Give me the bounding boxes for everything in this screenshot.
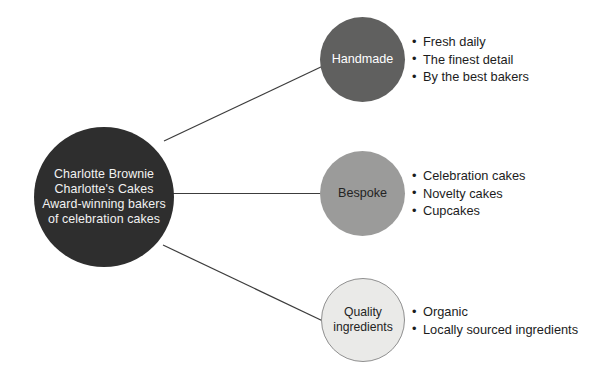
diagram-canvas: Charlotte Brownie Charlotte's Cakes Awar… bbox=[0, 0, 598, 383]
list-item: Cupcakes bbox=[412, 202, 525, 220]
connector-hub-to-handmade bbox=[164, 66, 323, 141]
branch-node-bespoke: Bespoke bbox=[320, 151, 405, 236]
connector-hub-to-quality bbox=[163, 245, 325, 322]
list-item: The finest detail bbox=[412, 51, 529, 69]
branch-node-quality-ingredients: Quality ingredients bbox=[321, 278, 405, 362]
hub-node: Charlotte Brownie Charlotte's Cakes Awar… bbox=[34, 127, 174, 267]
branch-node-handmade-label: Handmade bbox=[328, 52, 398, 67]
bullet-list-handmade: Fresh daily The finest detail By the bes… bbox=[412, 33, 529, 86]
list-item: By the best bakers bbox=[412, 68, 529, 86]
branch-node-handmade: Handmade bbox=[320, 17, 405, 102]
list-item: Fresh daily bbox=[412, 33, 529, 51]
bullet-list-quality-ingredients: Organic Locally sourced ingredients bbox=[412, 303, 578, 338]
branch-node-quality-ingredients-label: Quality ingredients bbox=[329, 305, 397, 335]
list-item: Locally sourced ingredients bbox=[412, 321, 578, 339]
list-item: Celebration cakes bbox=[412, 167, 525, 185]
branch-node-bespoke-label: Bespoke bbox=[334, 186, 391, 201]
list-item: Organic bbox=[412, 303, 578, 321]
hub-node-label: Charlotte Brownie Charlotte's Cakes Awar… bbox=[38, 167, 170, 228]
list-item: Novelty cakes bbox=[412, 185, 525, 203]
bullet-list-bespoke: Celebration cakes Novelty cakes Cupcakes bbox=[412, 167, 525, 220]
